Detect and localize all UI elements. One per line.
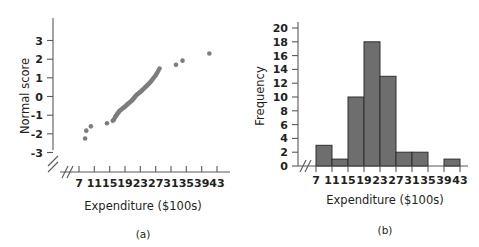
x-tick-label: 19 xyxy=(356,174,371,187)
y-tick-label: 0 xyxy=(35,91,43,104)
x-tick-label: 23 xyxy=(133,177,148,190)
x-tick-label: 39 xyxy=(436,174,451,187)
x-tick-label: 15 xyxy=(340,174,355,187)
scatter-point xyxy=(105,121,110,126)
y-tick-label: 20 xyxy=(273,22,289,35)
histogram-bar xyxy=(364,42,380,166)
panel-a-x-axis-title: Expenditure ($100s) xyxy=(84,199,201,213)
y-tick-label: 3 xyxy=(35,35,43,48)
x-tick-label: 43 xyxy=(452,174,467,187)
panel-b-y-axis-title: Frequency xyxy=(253,66,267,126)
panel-b-caption: (b) xyxy=(378,224,393,236)
panel-a-svg: 3 2 1 0 -1 -2 -3 xyxy=(0,0,240,247)
y-tick-label: 2 xyxy=(280,146,288,159)
x-tick-label: 7 xyxy=(75,177,83,190)
y-tick-label: 0 xyxy=(280,160,288,173)
panel-a-y-ticks xyxy=(47,41,53,153)
y-tick-label: 2 xyxy=(35,53,43,66)
histogram-bar xyxy=(380,76,396,166)
panel-b-x-ticks xyxy=(316,166,460,172)
panel-a-y-axis-break-icon xyxy=(48,156,58,172)
histogram-bar xyxy=(348,97,364,166)
y-tick-label: 16 xyxy=(273,50,289,63)
scatter-point xyxy=(174,62,179,67)
x-tick-label: 23 xyxy=(372,174,387,187)
panel-b-x-tick-labels: 7111519232731353943 xyxy=(312,174,467,187)
histogram-bar xyxy=(332,159,348,166)
x-tick-label: 43 xyxy=(209,177,224,190)
panel-a-y-axis-title: Normal score xyxy=(18,58,32,134)
x-tick-label: 19 xyxy=(117,177,132,190)
panel-b-y-tick-labels: 02468101214161820 xyxy=(273,22,289,173)
scatter-point xyxy=(157,66,162,71)
y-tick-label: 6 xyxy=(280,119,288,132)
x-tick-label: 15 xyxy=(102,177,117,190)
x-tick-label: 31 xyxy=(404,174,419,187)
figure-container: 3 2 1 0 -1 -2 -3 xyxy=(0,0,479,247)
scatter-point xyxy=(207,51,212,56)
y-tick-label: 4 xyxy=(280,132,288,145)
x-tick-label: 27 xyxy=(148,177,163,190)
x-tick-label: 7 xyxy=(312,174,320,187)
y-tick-label: -3 xyxy=(31,147,43,160)
scatter-point xyxy=(83,136,88,141)
histogram-bar xyxy=(396,152,412,166)
scatter-point xyxy=(180,58,185,63)
histogram-bar xyxy=(412,152,428,166)
y-tick-label: 14 xyxy=(273,63,289,76)
y-tick-label: -2 xyxy=(31,128,43,141)
panel-a-data-points xyxy=(83,51,212,141)
x-tick-label: 27 xyxy=(388,174,403,187)
panel-a-x-ticks xyxy=(79,166,217,172)
y-tick-label: 12 xyxy=(273,77,288,90)
panel-a-y-tick-labels: 3 2 1 0 -1 -2 -3 xyxy=(31,35,44,160)
panel-b-x-axis-title: Expenditure ($100s) xyxy=(326,193,443,207)
x-tick-label: 35 xyxy=(179,177,194,190)
histogram-bar xyxy=(444,159,460,166)
x-tick-label: 39 xyxy=(194,177,209,190)
scatter-point xyxy=(89,124,94,129)
panel-b-svg: 02468101214161820 7111519232731353943 Fr… xyxy=(240,0,479,247)
x-tick-label: 11 xyxy=(87,177,102,190)
panel-b-histogram: 02468101214161820 7111519232731353943 Fr… xyxy=(240,0,479,247)
y-tick-label: -1 xyxy=(31,109,43,122)
y-tick-label: 1 xyxy=(35,72,43,85)
x-tick-label: 31 xyxy=(163,177,178,190)
y-tick-label: 8 xyxy=(280,105,288,118)
x-tick-label: 11 xyxy=(324,174,339,187)
histogram-bar xyxy=(316,145,332,166)
scatter-point xyxy=(84,128,89,133)
panel-a-caption: (a) xyxy=(136,228,151,240)
x-tick-label: 35 xyxy=(420,174,435,187)
y-tick-label: 18 xyxy=(273,36,288,49)
panel-b-y-ticks xyxy=(292,28,298,166)
panel-b-bars xyxy=(316,42,460,166)
panel-a-x-tick-labels: 7 11 15 19 23 27 31 35 39 43 xyxy=(75,177,224,190)
y-tick-label: 10 xyxy=(273,91,289,104)
panel-a-normal-probability-plot: 3 2 1 0 -1 -2 -3 xyxy=(0,0,240,247)
